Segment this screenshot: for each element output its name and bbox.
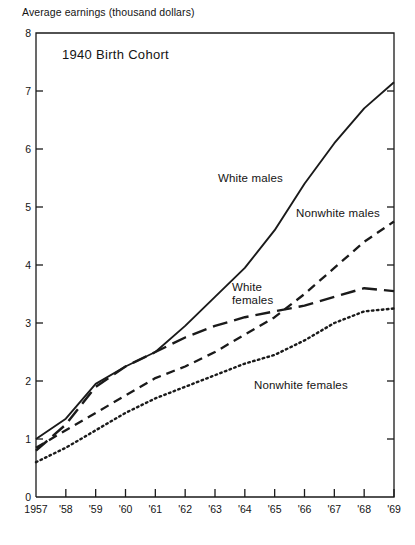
x-tick-label: '63	[208, 503, 222, 515]
series-label-white-males: White males	[218, 172, 283, 185]
series-label-white-females: White females	[232, 281, 290, 307]
series-label-white-females-line1: White	[232, 281, 262, 293]
y-tick-label: 8	[25, 27, 31, 39]
y-tick-label: 6	[25, 143, 31, 155]
series-line-white-females	[36, 288, 394, 450]
x-tick-label: 1957	[24, 503, 47, 515]
y-tick-label: 0	[25, 491, 31, 503]
y-axis-caption: Average earnings (thousand dollars)	[22, 6, 195, 18]
series-line-nonwhite-males	[36, 222, 394, 448]
y-tick-label: 2	[25, 375, 31, 387]
y-tick-label: 5	[25, 201, 31, 213]
plot-canvas	[0, 0, 415, 545]
x-tick-label: '59	[89, 503, 103, 515]
y-tick-label: 4	[25, 259, 31, 271]
plot-title: 1940 Birth Cohort	[62, 47, 169, 62]
series-label-white-females-line2: females	[232, 294, 273, 306]
x-tick-label: '67	[327, 503, 341, 515]
series-label-nonwhite-males: Nonwhite males	[296, 207, 380, 220]
x-tick-label: '68	[357, 503, 371, 515]
x-tick-label: '69	[387, 503, 401, 515]
x-tick-label: '58	[59, 503, 73, 515]
x-tick-label: '65	[268, 503, 282, 515]
x-tick-label: '61	[148, 503, 162, 515]
x-tick-label: '64	[238, 503, 252, 515]
y-tick-label: 7	[25, 85, 31, 97]
x-tick-label: '62	[178, 503, 192, 515]
x-tick-label: '60	[119, 503, 133, 515]
data-series-group	[36, 82, 394, 462]
axis-frame	[36, 33, 394, 497]
chart-figure: Average earnings (thousand dollars) 1940…	[0, 0, 415, 545]
y-tick-label: 1	[25, 433, 31, 445]
x-tick-label: '66	[298, 503, 312, 515]
series-label-nonwhite-females: Nonwhite females	[254, 379, 348, 392]
y-tick-label: 3	[25, 317, 31, 329]
x-axis-ticks	[66, 489, 394, 497]
